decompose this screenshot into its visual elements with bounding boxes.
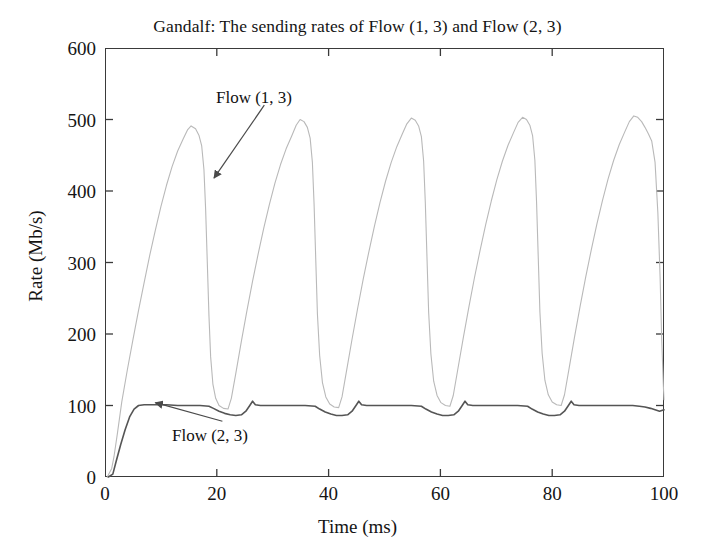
plot-canvas: [105, 48, 664, 477]
y-tick-label: 500: [32, 111, 96, 130]
x-tick-label: 20: [207, 484, 226, 503]
x-axis-title: Time (ms): [0, 516, 715, 538]
annotation-label-flow-2-3: Flow (2, 3): [172, 426, 248, 446]
x-tick-label: 60: [431, 484, 450, 503]
y-tick-label: 600: [32, 39, 96, 58]
y-axis-title: Rate (Mb/s): [25, 156, 47, 356]
annotation-label-flow-1-3: Flow (1, 3): [216, 88, 292, 108]
y-tick-label: 0: [32, 468, 96, 487]
y-tick-label: 100: [32, 397, 96, 416]
x-tick-label: 0: [100, 484, 110, 503]
page-title: Gandalf: The sending rates of Flow (1, 3…: [0, 16, 715, 37]
x-tick-label: 100: [650, 484, 679, 503]
series-line-flow-1-3: [107, 116, 664, 477]
chart-page: Gandalf: The sending rates of Flow (1, 3…: [0, 0, 715, 550]
x-tick-label: 80: [543, 484, 562, 503]
x-tick-label: 40: [319, 484, 338, 503]
